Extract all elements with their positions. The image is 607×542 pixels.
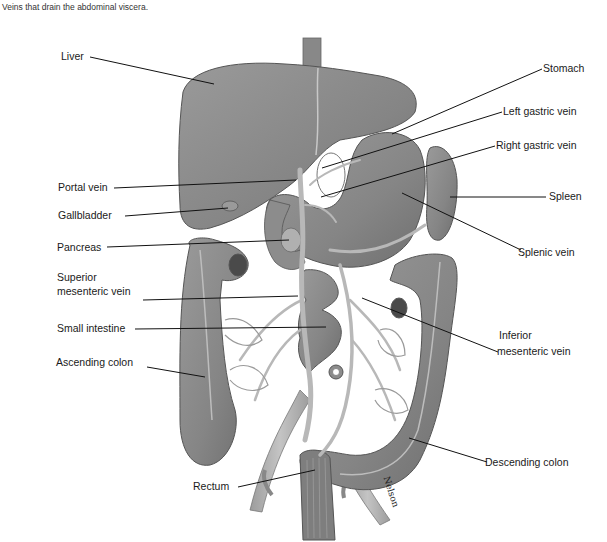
label-superior-mesenteric-vein-line1: Superior [57, 271, 97, 284]
spleen-shape [427, 147, 458, 241]
label-pancreas: Pancreas [57, 241, 101, 254]
label-superior-mesenteric-vein-line2: mesenteric vein [57, 285, 131, 298]
label-stomach: Stomach [543, 62, 584, 75]
label-splenic-vein: Splenic vein [518, 246, 575, 259]
label-spleen: Spleen [549, 190, 582, 203]
rectum-shape [300, 450, 335, 540]
label-small-intestine: Small intestine [57, 322, 125, 335]
label-liver: Liver [61, 50, 84, 63]
label-descending-colon: Descending colon [485, 456, 568, 469]
label-gallbladder: Gallbladder [58, 209, 112, 222]
label-ascending-colon: Ascending colon [56, 356, 133, 369]
label-inferior-mesenteric-vein-line1: Inferior [499, 329, 532, 342]
label-left-gastric-vein: Left gastric vein [503, 105, 577, 118]
label-portal-vein: Portal vein [58, 181, 108, 194]
label-right-gastric-vein: Right gastric vein [496, 139, 577, 152]
label-rectum: Rectum [193, 480, 229, 493]
label-inferior-mesenteric-vein-line2: mesenteric vein [497, 345, 571, 358]
gallbladder-shape [222, 201, 238, 211]
